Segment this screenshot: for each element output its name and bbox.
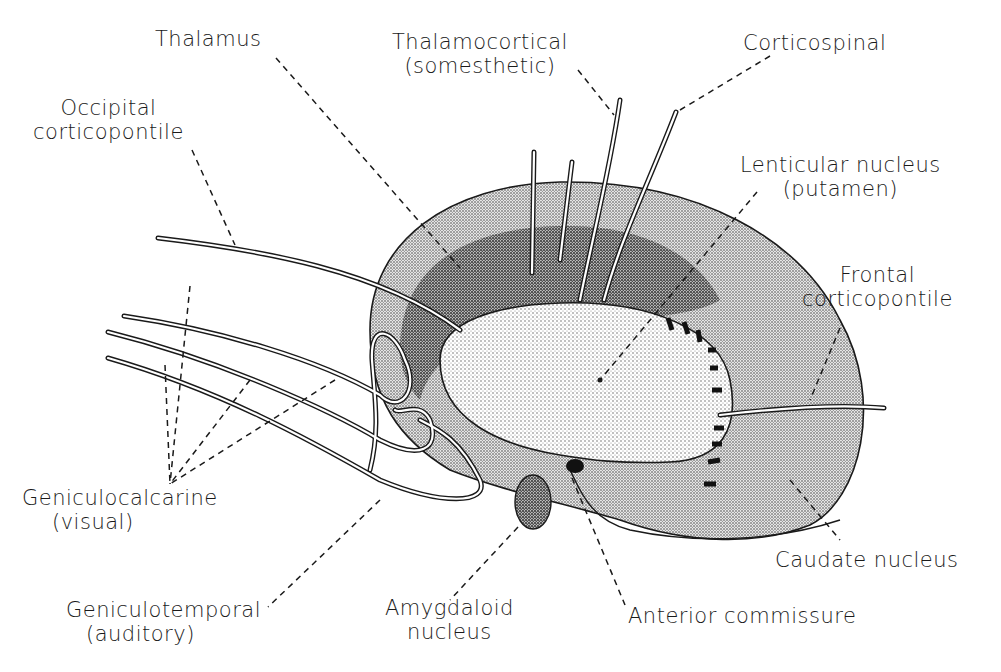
label-geniculotemporal: Geniculotemporal (auditory) bbox=[66, 598, 261, 646]
label-geniculocalcarine: Geniculocalcarine (visual) bbox=[22, 486, 218, 534]
label-thalamocortical-line1: Thalamocortical bbox=[392, 30, 568, 54]
label-amygdaloid-line2: nucleus bbox=[385, 620, 514, 644]
label-geniculotemporal-line1: Geniculotemporal bbox=[66, 598, 261, 622]
label-frontal-line2: corticopontile bbox=[802, 287, 953, 311]
label-anterior-commissure: Anterior commissure bbox=[628, 604, 856, 628]
label-geniculocalcarine-line1: Geniculocalcarine bbox=[22, 486, 218, 510]
label-thalamocortical: Thalamocortical (somesthetic) bbox=[392, 30, 568, 78]
label-amygdaloid-nucleus: Amygdaloid nucleus bbox=[385, 596, 514, 644]
label-frontal-corticopontile: Frontal corticopontile bbox=[802, 263, 953, 311]
label-thalamus: Thalamus bbox=[155, 27, 261, 51]
label-geniculotemporal-line2: (auditory) bbox=[66, 622, 261, 646]
label-frontal-line1: Frontal bbox=[802, 263, 953, 287]
anterior-commissure-shape bbox=[566, 459, 584, 473]
label-lenticular-line2: (putamen) bbox=[740, 177, 941, 201]
label-occipital-line1: Occipital bbox=[33, 96, 184, 120]
label-amygdaloid-line1: Amygdaloid bbox=[385, 596, 514, 620]
label-geniculocalcarine-line2: (visual) bbox=[22, 510, 218, 534]
label-lenticular-nucleus: Lenticular nucleus (putamen) bbox=[740, 153, 941, 201]
diagram-canvas: Thalamus Thalamocortical (somesthetic) C… bbox=[0, 0, 1001, 672]
label-occipital-corticopontile: Occipital corticopontile bbox=[33, 96, 184, 144]
label-occipital-line2: corticopontile bbox=[33, 120, 184, 144]
label-caudate-nucleus: Caudate nucleus bbox=[775, 548, 959, 572]
label-thalamocortical-line2: (somesthetic) bbox=[392, 54, 568, 78]
label-corticospinal: Corticospinal bbox=[743, 31, 886, 55]
amygdaloid-nucleus-shape bbox=[515, 475, 551, 529]
label-lenticular-line1: Lenticular nucleus bbox=[740, 153, 941, 177]
